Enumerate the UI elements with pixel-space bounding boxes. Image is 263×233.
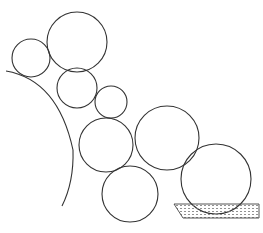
circle-far-right (181, 144, 251, 214)
hatched-tray (174, 204, 259, 218)
circle-group (12, 12, 251, 222)
circle-center-left (79, 118, 133, 172)
circle-right (135, 106, 199, 170)
circle-bottom (102, 166, 158, 222)
circle-left-small (12, 39, 50, 77)
diagram-canvas (0, 0, 263, 233)
circle-middle (57, 68, 97, 108)
curved-arc (6, 71, 73, 206)
circle-small-right (95, 86, 127, 118)
circle-top-large (47, 12, 107, 72)
